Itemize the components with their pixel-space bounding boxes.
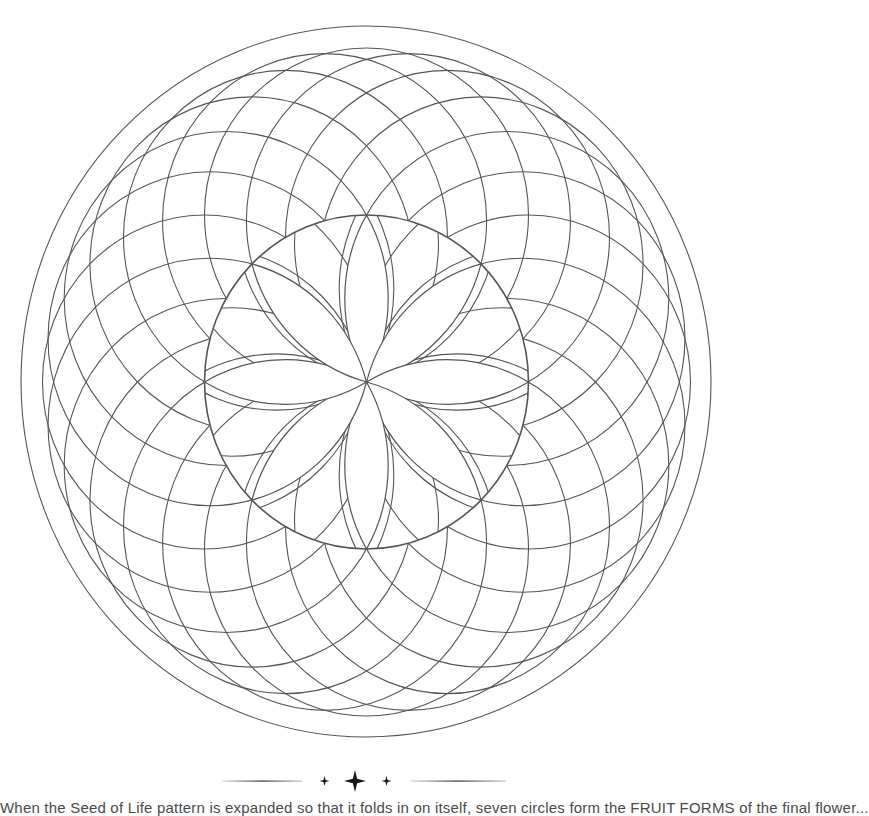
large-star-icon bbox=[344, 770, 366, 792]
divider-line-left bbox=[222, 781, 302, 782]
small-star-icon bbox=[382, 776, 392, 786]
divider-line-right bbox=[410, 781, 506, 782]
small-star-icon bbox=[320, 776, 330, 786]
ornamental-divider bbox=[0, 766, 733, 796]
caption-text: When the Seed of Life pattern is expande… bbox=[0, 799, 733, 816]
mandala-illustration bbox=[0, 0, 733, 760]
inner-flower bbox=[46, 51, 688, 713]
mandala-geometry bbox=[21, 26, 711, 737]
